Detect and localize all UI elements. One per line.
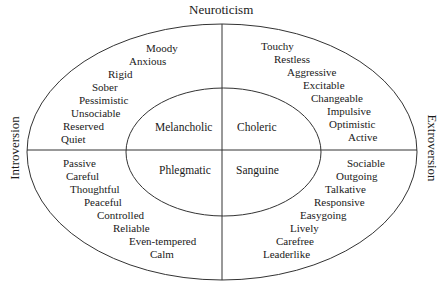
trait-outgoing: Outgoing [336,170,378,183]
trait-calm: Calm [150,248,174,261]
trait-quiet: Quiet [61,133,85,146]
trait-controlled: Controlled [97,209,144,222]
trait-changeable: Changeable [311,92,363,105]
trait-aggressive: Aggressive [287,66,337,79]
inner-ellipse [126,88,321,216]
temperament-phlegmatic: Phlegmatic [159,164,211,176]
temperament-melancholic: Melancholic [155,121,212,133]
trait-active: Active [348,131,377,144]
trait-lively: Lively [290,222,319,235]
trait-unsociable: Unsociable [71,107,120,120]
trait-peaceful: Peaceful [84,196,122,209]
trait-sociable: Sociable [347,157,385,170]
trait-even-tempered: Even-tempered [129,235,196,248]
trait-rigid: Rigid [108,68,132,81]
trait-excitable: Excitable [303,79,345,92]
trait-pessimistic: Pessimistic [79,94,129,107]
trait-restless: Restless [274,53,310,66]
trait-passive: Passive [63,157,96,170]
trait-carefree: Carefree [276,235,314,248]
temperament-sanguine: Sanguine [236,164,279,176]
trait-impulsive: Impulsive [327,105,371,118]
axis-label-introversion: Introversion [7,116,23,180]
trait-thoughtful: Thoughtful [70,183,120,196]
temperament-choleric: Choleric [237,121,277,133]
trait-leaderlike: Leaderlike [263,248,310,261]
trait-easygoing: Easygoing [300,209,346,222]
axis-label-neuroticism: Neuroticism [189,2,253,18]
trait-talkative: Talkative [325,183,366,196]
trait-moody: Moody [146,42,178,55]
trait-responsive: Responsive [314,196,365,209]
axis-label-extroversion: Extroversion [424,113,440,183]
trait-optimistic: Optimistic [329,118,375,131]
trait-sober: Sober [92,81,118,94]
trait-reliable: Reliable [113,222,150,235]
trait-careful: Careful [66,170,99,183]
trait-anxious: Anxious [129,55,166,68]
trait-touchy: Touchy [261,40,294,53]
trait-reserved: Reserved [63,120,104,133]
